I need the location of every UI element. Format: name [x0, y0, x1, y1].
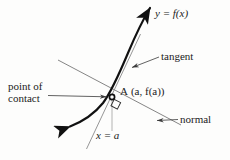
point-of-contact-line1: point of: [8, 81, 43, 93]
point-of-contact-marker: [109, 94, 114, 99]
x-equals-a-label: x = a: [96, 130, 119, 142]
leader-normal: [157, 120, 178, 121]
point-a-label: A(a, f(a)): [120, 86, 165, 98]
point-a-letter: A: [120, 85, 128, 97]
curve-equation-label: y = f(x): [155, 8, 188, 20]
point-of-contact-label: point of contact: [8, 81, 43, 104]
leader-point-of-contact: [48, 96, 107, 97]
curve-y-equals-f-of-x: [70, 8, 150, 127]
tangent-label: tangent: [161, 51, 193, 63]
leader-tangent: [132, 57, 159, 68]
tangent-normal-diagram: y = f(x) tangent normal point of contact…: [0, 0, 230, 160]
point-a-coordinates: (a, f(a)): [131, 85, 165, 97]
point-of-contact-line2: contact: [8, 93, 43, 105]
normal-label: normal: [180, 114, 211, 126]
